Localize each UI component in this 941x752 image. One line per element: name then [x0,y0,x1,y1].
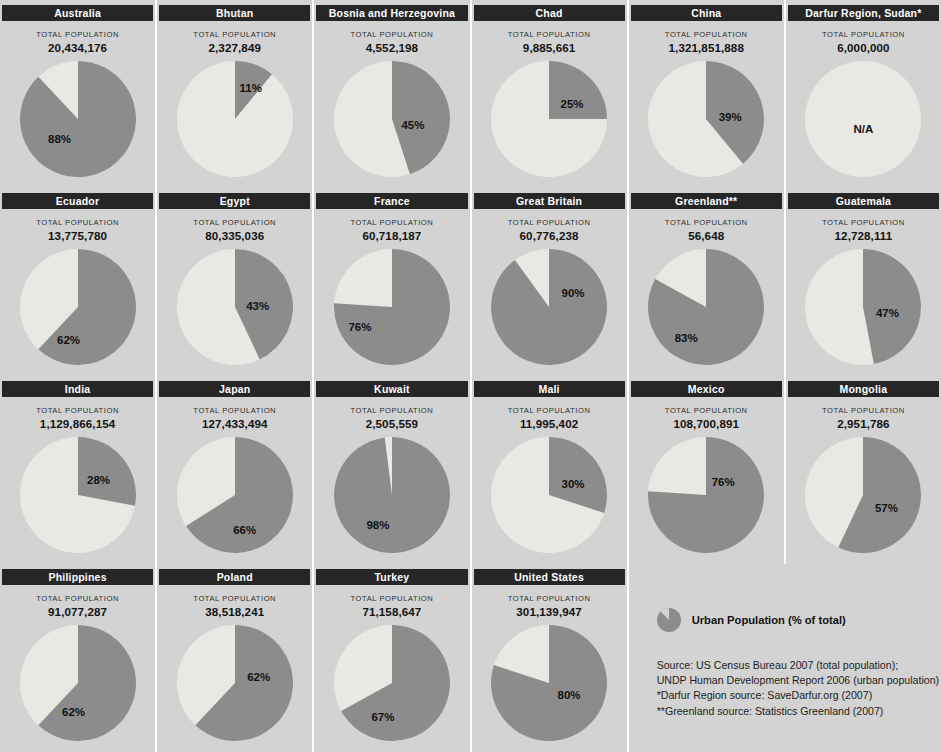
country-panel[interactable]: PhilippinesTOTAL POPULATION91,077,28762% [0,564,155,752]
urban-percent-label: 76% [712,476,735,488]
total-population-label: TOTAL POPULATION [0,30,155,39]
total-population-label: TOTAL POPULATION [314,406,469,415]
country-panel[interactable]: ChinaTOTAL POPULATION1,321,851,88839% [629,0,784,188]
total-population-value: 91,077,287 [0,605,155,618]
total-population-label: TOTAL POPULATION [629,30,784,39]
country-panel[interactable]: FranceTOTAL POPULATION60,718,18776% [314,188,469,376]
urban-population-pie[interactable] [20,249,136,365]
country-panel[interactable]: Greenland**TOTAL POPULATION56,64883% [629,188,784,376]
country-panel[interactable]: TurkeyTOTAL POPULATION71,158,64767% [314,564,469,752]
urban-population-pie[interactable] [20,437,136,553]
pie-chart-area: 88% [0,59,155,179]
country-name-header: Mali [474,381,625,397]
country-panel[interactable]: JapanTOTAL POPULATION127,433,49466% [157,376,312,564]
country-panel[interactable]: EcuadorTOTAL POPULATION13,775,78062% [0,188,155,376]
pie-chart-area: N/A [786,59,941,179]
country-panel[interactable]: PolandTOTAL POPULATION38,518,24162% [157,564,312,752]
urban-population-pie[interactable] [177,61,293,177]
pie-chart-area: 30% [472,435,627,555]
country-panel[interactable]: MongoliaTOTAL POPULATION2,951,78657% [786,376,941,564]
urban-population-pie[interactable] [334,437,450,553]
pie-chart-area: 76% [629,435,784,555]
country-name-header: France [316,193,467,209]
pie-chart-graphic [648,61,764,177]
urban-population-pie[interactable] [648,249,764,365]
urban-percent-label: 62% [62,706,85,718]
urban-population-pie[interactable] [20,61,136,177]
country-panel[interactable]: MaliTOTAL POPULATION11,995,40230% [472,376,627,564]
urban-percent-label: 67% [371,711,394,723]
total-population-value: 2,505,559 [314,417,469,430]
urban-population-pie[interactable] [805,437,921,553]
urban-population-pie[interactable] [491,437,607,553]
urban-population-pie[interactable] [491,625,607,741]
total-population-value: 60,776,238 [472,229,627,242]
source-line: *Darfur Region source: SaveDarfur.org (2… [657,688,939,703]
country-panel[interactable]: EgyptTOTAL POPULATION80,335,03643% [157,188,312,376]
urban-percent-label: 25% [561,98,584,110]
urban-percent-label: 62% [57,334,80,346]
urban-population-pie[interactable] [648,61,764,177]
pie-chart-graphic [20,249,136,365]
urban-population-pie[interactable] [805,249,921,365]
pie-chart-area: 98% [314,435,469,555]
urban-population-pie[interactable] [334,625,450,741]
country-panel[interactable]: Darfur Region, Sudan*TOTAL POPULATION6,0… [786,0,941,188]
country-name-header: Bosnia and Herzegovina [316,5,467,21]
urban-population-pie[interactable] [334,249,450,365]
total-population-label: TOTAL POPULATION [0,406,155,415]
country-panel[interactable]: United StatesTOTAL POPULATION301,139,947… [472,564,627,752]
country-panel[interactable]: AustraliaTOTAL POPULATION20,434,17688% [0,0,155,188]
total-population-label: TOTAL POPULATION [0,218,155,227]
urban-population-pie[interactable] [334,61,450,177]
urban-population-pie[interactable] [177,625,293,741]
urban-percent-label: 80% [558,689,581,701]
urban-population-pie[interactable] [805,61,921,177]
country-panel[interactable]: KuwaitTOTAL POPULATION2,505,55998% [314,376,469,564]
total-population-value: 127,433,494 [157,417,312,430]
urban-percent-label: 98% [366,519,389,531]
urban-population-pie[interactable] [177,249,293,365]
country-name-header: China [631,5,782,21]
total-population-label: TOTAL POPULATION [786,406,941,415]
pie-chart-area: 67% [314,623,469,743]
total-population-label: TOTAL POPULATION [472,594,627,603]
pie-chart-graphic [20,625,136,741]
pie-chart-area: 90% [472,247,627,367]
urban-percent-label: 66% [233,524,256,536]
total-population-label: TOTAL POPULATION [0,594,155,603]
total-population-label: TOTAL POPULATION [157,594,312,603]
urban-population-pie[interactable] [20,625,136,741]
total-population-value: 56,648 [629,229,784,242]
pie-chart-area: 57% [786,435,941,555]
total-population-value: 12,728,111 [786,229,941,242]
urban-population-pie[interactable] [648,437,764,553]
country-panel[interactable]: Bosnia and HerzegovinaTOTAL POPULATION4,… [314,0,469,188]
pie-chart-graphic [805,249,921,365]
pie-chart-area: 47% [786,247,941,367]
legend-and-sources: Urban Population (% of total)Source: US … [629,564,941,752]
country-panel[interactable]: Great BritainTOTAL POPULATION60,776,2389… [472,188,627,376]
country-panel-grid: AustraliaTOTAL POPULATION20,434,17688%Bh… [0,0,941,752]
country-panel[interactable]: ChadTOTAL POPULATION9,885,66125% [472,0,627,188]
pie-chart-area: 66% [157,435,312,555]
country-name-header: Japan [159,381,310,397]
pie-chart-graphic [805,437,921,553]
pie-chart-graphic [648,437,764,553]
country-panel[interactable]: GuatemalaTOTAL POPULATION12,728,11147% [786,188,941,376]
country-panel[interactable]: IndiaTOTAL POPULATION1,129,866,15428% [0,376,155,564]
total-population-value: 60,718,187 [314,229,469,242]
pie-chart-graphic [177,61,293,177]
total-population-value: 2,327,849 [157,41,312,54]
urban-population-pie[interactable] [491,61,607,177]
total-population-value: 4,552,198 [314,41,469,54]
total-population-value: 20,434,176 [0,41,155,54]
pie-chart-area: 62% [157,623,312,743]
urban-population-pie[interactable] [491,249,607,365]
pie-chart-area: 28% [0,435,155,555]
pie-chart-area: 39% [629,59,784,179]
country-panel[interactable]: MexicoTOTAL POPULATION108,700,89176% [629,376,784,564]
total-population-label: TOTAL POPULATION [786,30,941,39]
pie-chart-graphic [334,249,450,365]
country-panel[interactable]: BhutanTOTAL POPULATION2,327,84911% [157,0,312,188]
